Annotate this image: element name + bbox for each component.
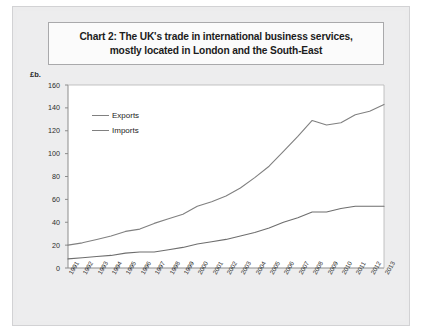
- y-axis-tick-label: 40: [34, 218, 60, 227]
- y-axis-tick-label: 20: [34, 241, 60, 250]
- legend-item-imports: Imports: [92, 123, 188, 138]
- plot-area: 020406080100120140160 199119921993199419…: [0, 0, 425, 332]
- y-axis-tick-label: 60: [34, 195, 60, 204]
- legend-label-imports: Imports: [112, 126, 139, 135]
- chart-legend: Exports Imports: [92, 108, 188, 138]
- chart-svg: [0, 0, 425, 332]
- y-axis-tick-label: 0: [34, 264, 60, 273]
- legend-label-exports: Exports: [112, 111, 139, 120]
- y-axis-tick-label: 160: [34, 81, 60, 90]
- y-axis-tick-label: 100: [34, 149, 60, 158]
- y-axis-tick-label: 80: [34, 172, 60, 181]
- y-axis-tick-label: 140: [34, 103, 60, 112]
- y-axis-tick-label: 120: [34, 126, 60, 135]
- screenshot-root: Chart 2: The UK's trade in international…: [0, 0, 425, 332]
- legend-swatch-imports: [92, 130, 109, 131]
- legend-swatch-exports: [92, 115, 109, 116]
- legend-item-exports: Exports: [92, 108, 188, 123]
